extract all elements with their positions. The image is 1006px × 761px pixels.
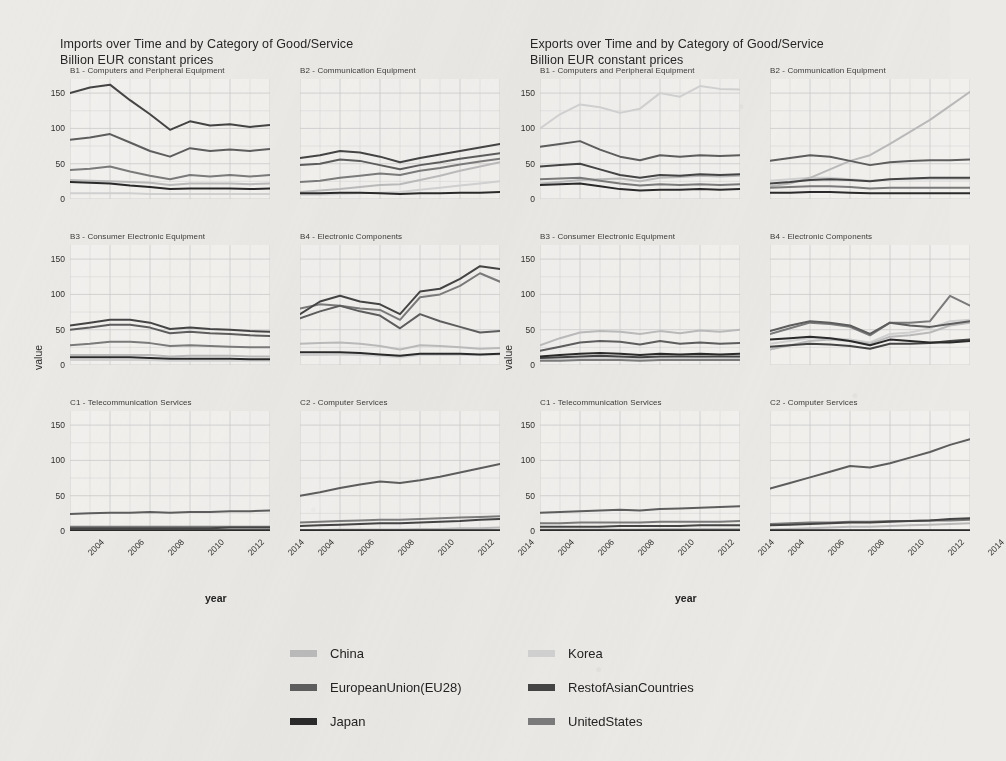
- legend-item[interactable]: China: [290, 636, 462, 670]
- x-tick-label: 2010: [436, 537, 456, 557]
- legend-label: EuropeanUnion(EU28): [330, 680, 462, 695]
- x-tick-label: 2004: [556, 537, 576, 557]
- plot-area: [540, 411, 740, 531]
- legend-label: RestofAsianCountries: [568, 680, 694, 695]
- y-tick-label: 100: [510, 123, 535, 133]
- y-tick-label: 100: [40, 455, 65, 465]
- panel-title: B3 - Consumer Electronic Equipment: [70, 232, 205, 241]
- imports-title: Imports over Time and by Category of Goo…: [60, 36, 353, 68]
- plot-area: [70, 245, 270, 365]
- panel-title: C2 - Computer Services: [300, 398, 388, 407]
- x-tick-label: 2004: [316, 537, 336, 557]
- series-line-unitedstates: [540, 360, 740, 361]
- exports-title: Exports over Time and by Category of Goo…: [530, 36, 824, 68]
- legend-label: UnitedStates: [568, 714, 642, 729]
- x-tick-label: 2006: [596, 537, 616, 557]
- y-tick-label: 50: [40, 325, 65, 335]
- plot-area: [540, 79, 740, 199]
- series-line-korea: [70, 360, 270, 361]
- plot-area: [770, 245, 970, 365]
- legend-label: Japan: [330, 714, 365, 729]
- plot-area: [540, 245, 740, 365]
- panel-title: C1 - Telecommunication Services: [540, 398, 662, 407]
- gridlines: [540, 411, 740, 531]
- y-tick-label: 150: [510, 254, 535, 264]
- imports-x-axis-title: year: [205, 592, 227, 604]
- gridlines: [770, 411, 970, 531]
- legend-swatch-icon: [290, 650, 317, 657]
- y-tick-label: 100: [510, 289, 535, 299]
- x-tick-label: 2006: [126, 537, 146, 557]
- x-tick-label: 2004: [786, 537, 806, 557]
- x-tick-label: 2014: [986, 537, 1006, 557]
- y-tick-label: 100: [40, 289, 65, 299]
- x-tick-label: 2008: [166, 537, 186, 557]
- plot-area: [770, 79, 970, 199]
- legend-swatch-icon: [528, 718, 555, 725]
- panel-title: B4 - Electronic Components: [300, 232, 402, 241]
- y-tick-label: 0: [510, 194, 535, 204]
- y-tick-label: 0: [40, 194, 65, 204]
- x-tick-label: 2008: [636, 537, 656, 557]
- panel-title: B1 - Computers and Peripheral Equipment: [540, 66, 695, 75]
- legend-column-1: ChinaEuropeanUnion(EU28)Japan: [290, 636, 462, 738]
- y-tick-label: 100: [40, 123, 65, 133]
- x-tick-label: 2010: [906, 537, 926, 557]
- panel-title: B4 - Electronic Components: [770, 232, 872, 241]
- panel-title: B1 - Computers and Peripheral Equipment: [70, 66, 225, 75]
- legend-label: China: [330, 646, 364, 661]
- exports-figure: Exports over Time and by Category of Goo…: [470, 0, 950, 620]
- legend-item[interactable]: Japan: [290, 704, 462, 738]
- x-tick-label: 2012: [246, 537, 266, 557]
- y-tick-label: 150: [40, 254, 65, 264]
- legend-column-2: KoreaRestofAsianCountriesUnitedStates: [528, 636, 694, 738]
- panel-title: C1 - Telecommunication Services: [70, 398, 192, 407]
- y-tick-label: 150: [40, 420, 65, 430]
- series-line-restofasiancountries: [540, 525, 740, 526]
- x-tick-label: 2010: [206, 537, 226, 557]
- x-tick-label: 2004: [86, 537, 106, 557]
- panel-title: B3 - Consumer Electronic Equipment: [540, 232, 675, 241]
- legend-swatch-icon: [528, 650, 555, 657]
- y-tick-label: 150: [510, 88, 535, 98]
- y-tick-label: 50: [40, 491, 65, 501]
- x-tick-label: 2014: [756, 537, 776, 557]
- y-tick-label: 0: [40, 526, 65, 536]
- legend-label: Korea: [568, 646, 603, 661]
- y-tick-label: 150: [40, 88, 65, 98]
- legend-item[interactable]: EuropeanUnion(EU28): [290, 670, 462, 704]
- legend-item[interactable]: UnitedStates: [528, 704, 694, 738]
- x-tick-label: 2006: [356, 537, 376, 557]
- x-tick-label: 2014: [286, 537, 306, 557]
- y-tick-label: 50: [40, 159, 65, 169]
- legend-item[interactable]: RestofAsianCountries: [528, 670, 694, 704]
- x-tick-label: 2006: [826, 537, 846, 557]
- imports-figure: Imports over Time and by Category of Goo…: [0, 0, 480, 620]
- gridlines: [770, 245, 970, 365]
- exports-x-axis-title: year: [675, 592, 697, 604]
- x-tick-label: 2012: [946, 537, 966, 557]
- y-tick-label: 0: [510, 360, 535, 370]
- legend-item[interactable]: Korea: [528, 636, 694, 670]
- legend-swatch-icon: [290, 684, 317, 691]
- x-tick-label: 2008: [396, 537, 416, 557]
- y-tick-label: 100: [510, 455, 535, 465]
- x-tick-label: 2008: [866, 537, 886, 557]
- y-tick-label: 150: [510, 420, 535, 430]
- series-line-restofasiancountries: [70, 527, 270, 528]
- y-tick-label: 50: [510, 491, 535, 501]
- panel-title: C2 - Computer Services: [770, 398, 858, 407]
- panel-title: B2 - Communication Equipment: [770, 66, 886, 75]
- plot-area: [770, 411, 970, 531]
- plot-area: [70, 411, 270, 531]
- y-tick-label: 50: [510, 325, 535, 335]
- legend: ChinaEuropeanUnion(EU28)Japan KoreaResto…: [290, 636, 750, 746]
- y-tick-label: 0: [510, 526, 535, 536]
- x-tick-label: 2012: [716, 537, 736, 557]
- y-tick-label: 50: [510, 159, 535, 169]
- y-tick-label: 0: [40, 360, 65, 370]
- gridlines: [540, 245, 740, 365]
- series-line-korea: [70, 193, 270, 194]
- legend-swatch-icon: [290, 718, 317, 725]
- panel-title: B2 - Communication Equipment: [300, 66, 416, 75]
